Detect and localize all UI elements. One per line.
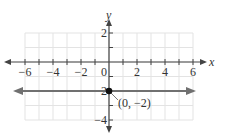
x-tick-label: −2 <box>75 65 88 79</box>
annotation-leader-line <box>111 93 118 100</box>
x-tick-label: −6 <box>19 65 32 79</box>
x-axis-label: x <box>208 55 215 69</box>
x-tick-label: 0 <box>101 65 107 79</box>
line-left-arrow-icon <box>13 87 23 95</box>
y-axis-bottom-arrow-icon <box>106 126 112 133</box>
point-marker <box>106 88 113 95</box>
y-axis-label: y <box>105 8 112 22</box>
x-tick-label: 6 <box>190 65 196 79</box>
x-tick-label: 2 <box>134 65 140 79</box>
point-annotation-label: (0, −2) <box>118 96 151 110</box>
line-right-arrow-icon <box>186 87 196 95</box>
x-axis-left-arrow-icon <box>4 59 11 65</box>
x-tick-label: −4 <box>47 65 60 79</box>
coordinate-plane: −6−4−202462−2−4 (0, −2) x y <box>0 0 228 137</box>
x-axis-right-arrow-icon <box>200 59 207 65</box>
y-tick-label: 2 <box>101 26 107 40</box>
y-tick-label: −4 <box>94 113 107 127</box>
x-tick-label: 4 <box>162 65 168 79</box>
